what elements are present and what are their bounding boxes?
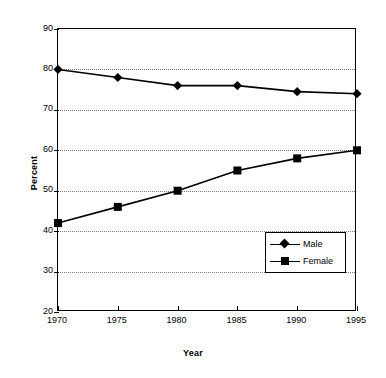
data-point-female-1970 — [54, 219, 62, 227]
square-marker-icon — [270, 256, 300, 268]
y-axis-tick-label: 90 — [27, 24, 53, 33]
x-axis-tick-label: 1990 — [274, 316, 318, 325]
data-point-female-1980 — [174, 187, 182, 195]
data-point-male-1970 — [53, 65, 62, 74]
series-line-female — [58, 150, 357, 223]
x-axis-tick-label: 1975 — [95, 316, 139, 325]
y-axis-tick-label: 80 — [27, 64, 53, 73]
line-chart: Percent 9080706050403020 197019751980198… — [0, 0, 386, 378]
data-point-male-1995 — [352, 89, 361, 98]
x-axis-tick-label: 1980 — [155, 316, 199, 325]
x-axis-title: Year — [0, 348, 386, 358]
diamond-marker-icon — [270, 239, 300, 251]
legend-item-female[interactable]: Female — [270, 253, 341, 270]
x-axis-tick — [357, 306, 358, 311]
legend-item-male[interactable]: Male — [270, 236, 341, 253]
chart-legend: MaleFemale — [265, 232, 346, 273]
legend-label: Female — [300, 257, 333, 266]
data-point-female-1975 — [114, 203, 122, 211]
data-point-male-1990 — [293, 87, 302, 96]
y-axis-tick-label: 60 — [27, 145, 53, 154]
data-point-female-1985 — [233, 167, 241, 175]
series-line-male — [58, 69, 357, 93]
legend-label: Male — [300, 240, 323, 249]
y-axis-tick-label: 40 — [27, 226, 53, 235]
data-point-female-1990 — [293, 154, 301, 162]
data-point-female-1995 — [353, 146, 361, 154]
y-axis-tick-label: 30 — [27, 266, 53, 275]
y-axis-tick-label: 50 — [27, 185, 53, 194]
x-axis-tick-labels: 197019751980198519901995 — [0, 316, 386, 330]
x-axis-tick-label: 1970 — [35, 316, 79, 325]
data-point-male-1975 — [113, 73, 122, 82]
y-axis-tick-label: 70 — [27, 104, 53, 113]
x-axis-tick-label: 1985 — [214, 316, 258, 325]
data-point-male-1980 — [173, 81, 182, 90]
data-point-male-1985 — [233, 81, 242, 90]
y-axis-tick — [54, 312, 59, 313]
x-axis-tick-label: 1995 — [334, 316, 378, 325]
